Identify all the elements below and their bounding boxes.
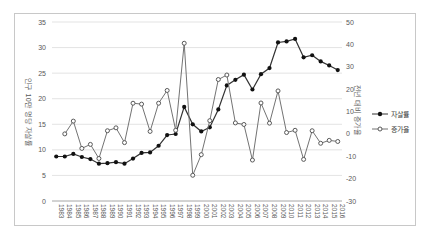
suicide-rate-point xyxy=(148,150,152,154)
year-tick-label: 1997 xyxy=(177,204,184,219)
left-axis-tick-label: 20 xyxy=(38,95,46,102)
year-tick-label: 1985 xyxy=(75,204,82,219)
year-tick-label: 1986 xyxy=(83,204,90,219)
year-tick-label: 2015 xyxy=(331,204,338,219)
suicide-rate-point xyxy=(165,133,169,137)
growth-rate-point xyxy=(140,102,144,106)
suicide-rate-point xyxy=(131,156,135,160)
year-tick-label: 2004 xyxy=(237,204,244,219)
year-tick-label: 1988 xyxy=(100,204,107,219)
growth-rate-point xyxy=(191,173,195,177)
year-tick-label: 2002 xyxy=(220,204,227,219)
left-axis-tick-label: 25 xyxy=(38,70,46,77)
suicide-rate-point xyxy=(310,53,314,57)
year-tick-label: 2009 xyxy=(280,204,287,219)
suicide-rate-point xyxy=(327,63,331,67)
growth-rate-point xyxy=(276,89,280,93)
suicide-rate-point xyxy=(182,105,186,109)
growth-rate-point xyxy=(105,129,109,133)
growth-rate-point xyxy=(174,128,178,132)
growth-rate-point xyxy=(63,132,67,136)
suicide-rate-point xyxy=(233,78,237,82)
growth-rate-point xyxy=(88,142,92,146)
year-tick-label: 2012 xyxy=(305,204,312,219)
suicide-rate-point xyxy=(80,155,84,159)
suicide-rate-point xyxy=(105,161,109,165)
legend-label-growth-rate: 증가율 xyxy=(391,124,409,134)
suicide-rate-point xyxy=(276,40,280,44)
year-tick-label: 1983 xyxy=(58,204,65,219)
growth-rate-point xyxy=(114,126,118,130)
dual-axis-line-plot: 05101520253035-30-20-1001020304050198319… xyxy=(0,0,428,240)
suicide-rate-point xyxy=(88,157,92,161)
right-axis-tick-label: 30 xyxy=(346,63,354,70)
suicide-rate-point xyxy=(284,39,288,43)
growth-rate-point xyxy=(148,129,152,133)
suicide-rate-point xyxy=(54,154,58,158)
suicide-rate-point xyxy=(191,122,195,126)
growth-rate-point xyxy=(165,88,169,92)
legend: 자살률 증가율 xyxy=(372,109,409,134)
year-tick-label: 2007 xyxy=(262,204,269,219)
suicide-rate-point xyxy=(319,59,323,63)
growth-rate-point xyxy=(250,158,254,162)
legend-item-growth-rate[interactable]: 증가율 xyxy=(372,124,409,134)
year-tick-label: 2005 xyxy=(245,204,252,219)
suicide-rate-point xyxy=(114,160,118,164)
growth-rate-point xyxy=(225,73,229,77)
year-tick-label: 2008 xyxy=(271,204,278,219)
suicide-rate-line xyxy=(56,39,337,164)
left-axis-title: 인구 10만 명당 자살률 xyxy=(24,78,34,146)
growth-rate-point xyxy=(157,101,161,105)
year-tick-label: 1990 xyxy=(117,204,124,219)
year-tick-label: 1991 xyxy=(126,204,133,219)
year-tick-label: 1992 xyxy=(135,204,142,219)
right-axis-tick-label: 40 xyxy=(346,41,354,48)
legend-label-suicide-rate: 자살률 xyxy=(391,109,409,119)
suicide-rate-point xyxy=(199,129,203,133)
growth-rate-point xyxy=(268,121,272,125)
growth-rate-point xyxy=(319,141,323,145)
suicide-rate-point xyxy=(122,162,126,166)
filled-circle-marker-icon xyxy=(372,111,388,117)
left-axis-tick-label: 5 xyxy=(42,172,46,179)
year-tick-label: 1995 xyxy=(160,204,167,219)
year-tick-label: 2003 xyxy=(228,204,235,219)
year-tick-label: 1989 xyxy=(109,204,116,219)
suicide-rate-point xyxy=(293,37,297,41)
suicide-rate-point xyxy=(157,144,161,148)
growth-rate-point xyxy=(216,78,220,82)
right-axis-tick-label: -10 xyxy=(346,153,356,160)
year-tick-label: 2000 xyxy=(203,204,210,219)
year-tick-label: 2013 xyxy=(314,204,321,219)
growth-rate-point xyxy=(131,101,135,105)
year-tick-label: 1994 xyxy=(152,204,159,219)
growth-rate-point xyxy=(293,128,297,132)
growth-rate-point xyxy=(310,129,314,133)
suicide-rate-point xyxy=(97,162,101,166)
chart-image: 05101520253035-30-20-1001020304050198319… xyxy=(0,0,428,240)
year-tick-label: 1987 xyxy=(92,204,99,219)
growth-rate-point xyxy=(97,156,101,160)
growth-rate-point xyxy=(182,41,186,45)
suicide-rate-point xyxy=(71,152,75,156)
year-tick-label: 1993 xyxy=(143,204,150,219)
growth-rate-point xyxy=(233,121,237,125)
growth-rate-point xyxy=(71,119,75,123)
year-tick-label: 2014 xyxy=(322,204,329,219)
year-tick-label: 2001 xyxy=(211,204,218,219)
year-tick-label: 2016 xyxy=(339,204,346,219)
growth-rate-point xyxy=(199,153,203,157)
year-tick-label: 2010 xyxy=(288,204,295,219)
suicide-rate-point xyxy=(267,66,271,70)
growth-rate-point xyxy=(80,146,84,150)
growth-rate-point xyxy=(327,138,331,142)
suicide-rate-point xyxy=(336,68,340,72)
suicide-rate-point xyxy=(259,72,263,76)
left-axis-tick-label: 35 xyxy=(38,19,46,26)
growth-rate-point xyxy=(208,119,212,123)
growth-rate-point xyxy=(123,141,127,145)
legend-item-suicide-rate[interactable]: 자살률 xyxy=(372,109,409,119)
year-tick-label: 1999 xyxy=(194,204,201,219)
left-axis-tick-label: 10 xyxy=(38,146,46,153)
